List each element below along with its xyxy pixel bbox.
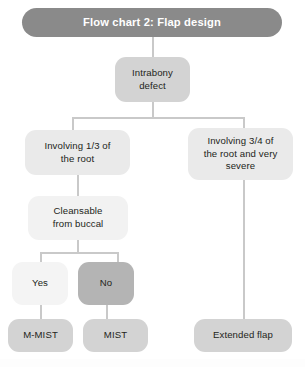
node-extended-flap-label: Extended flap — [213, 329, 273, 342]
node-mist-label: MIST — [104, 329, 127, 342]
node-intrabony-defect: Intrabony defect — [115, 57, 190, 102]
connector-yes-to-mmist — [40, 305, 42, 319]
connector-yesno-bus — [40, 252, 118, 254]
flowchart-diagram: Flow chart 2: Flap design Intrabony defe… — [0, 0, 305, 367]
flowchart-title-pill: Flow chart 2: Flap design — [22, 8, 282, 37]
node-yes-label: Yes — [32, 277, 48, 290]
node-involving-three-quarters-root: Involving 3/4 of the root and very sever… — [188, 128, 293, 180]
node-no-label: No — [100, 277, 112, 290]
connector-bus-to-branch-left — [72, 117, 74, 131]
node-yes: Yes — [12, 262, 68, 305]
connector-title-to-root — [152, 37, 154, 58]
connector-level2-bus — [72, 117, 244, 119]
node-m-mist-label: M-MIST — [23, 329, 58, 342]
node-intrabony-defect-label: Intrabony defect — [132, 67, 173, 92]
node-involving-three-quarters-root-label: Involving 3/4 of the root and very sever… — [204, 135, 278, 173]
node-no: No — [78, 262, 134, 305]
node-extended-flap: Extended flap — [194, 319, 292, 352]
node-cleansable-from-buccal-label: Cleansable from buccal — [53, 205, 104, 230]
node-m-mist: M-MIST — [8, 319, 73, 352]
connector-branchright-to-extendedflap — [243, 180, 245, 319]
node-cleansable-from-buccal: Cleansable from buccal — [28, 196, 128, 240]
node-involving-one-third-root: Involving 1/3 of the root — [25, 130, 130, 175]
connector-no-to-mist — [106, 305, 108, 319]
node-mist: MIST — [83, 319, 148, 352]
connector-root-stem — [152, 102, 154, 118]
connector-branchleft-to-cleansable — [77, 175, 79, 197]
footer-band — [0, 359, 305, 367]
flowchart-title-label: Flow chart 2: Flap design — [83, 16, 221, 29]
node-involving-one-third-root-label: Involving 1/3 of the root — [44, 140, 110, 165]
